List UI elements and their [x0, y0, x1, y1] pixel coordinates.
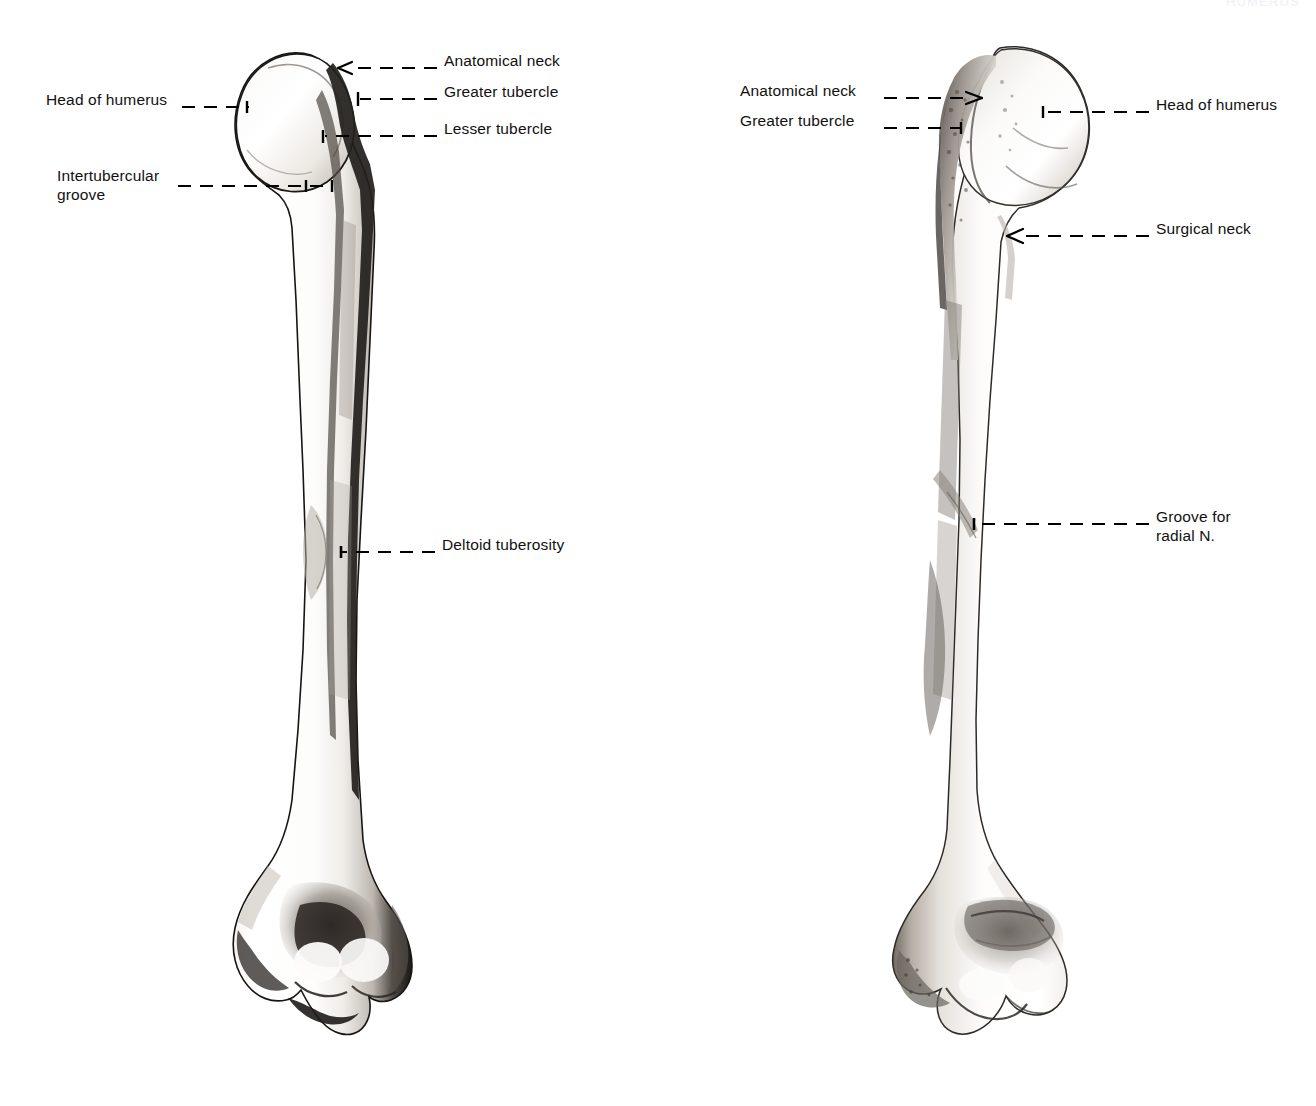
label-greater-tubercle-right: Greater tubercle	[740, 111, 854, 130]
label-surgical-neck-right: Surgical neck	[1156, 219, 1251, 238]
label-head-of-humerus-left: Head of humerus	[46, 90, 167, 109]
anterior-humerus-bone	[233, 53, 412, 1034]
posterior-humerus-bone	[893, 47, 1090, 1034]
arrow-anatomical-neck-left	[338, 62, 352, 74]
label-anatomical-neck-right: Anatomical neck	[740, 81, 856, 100]
label-deltoid-tuberosity-left: Deltoid tuberosity	[442, 535, 564, 554]
anatomy-plate: HUMERUS	[0, 0, 1316, 1106]
label-greater-tubercle-left: Greater tubercle	[444, 82, 558, 101]
label-intertubercular-groove-left: Intertubercular groove	[57, 166, 159, 204]
label-anatomical-neck-left: Anatomical neck	[444, 51, 560, 70]
label-head-of-humerus-right: Head of humerus	[1156, 95, 1277, 114]
humerus-figures	[0, 0, 1316, 1106]
label-lesser-tubercle-left: Lesser tubercle	[444, 119, 552, 138]
label-groove-for-radial-nerve-right: Groove for radial N.	[1156, 507, 1231, 545]
